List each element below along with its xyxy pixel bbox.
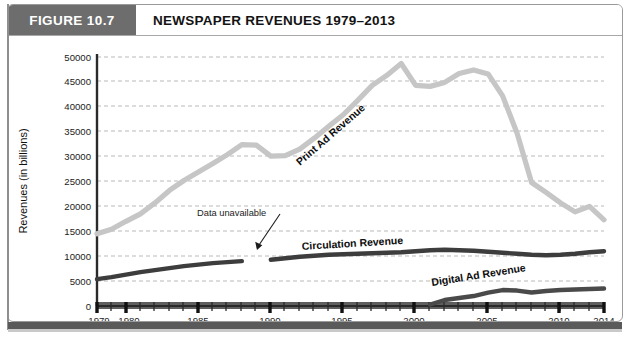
- x-tick-labels: 1979 1980 1985 1990 1995 2000 2005 2010 …: [88, 315, 615, 321]
- figure-header: FIGURE 10.7 NEWSPAPER REVENUES 1979–2013: [8, 5, 622, 35]
- footer-bar-shadow: [8, 329, 622, 332]
- figure-number-tag: FIGURE 10.7: [8, 5, 136, 35]
- y-tick-labels: 0 5000 10000 15000 20000 25000 30000 350…: [64, 52, 91, 312]
- card-left-edge: [7, 4, 9, 330]
- y-tick-30000: 30000: [64, 151, 91, 162]
- y-tick-40000: 40000: [64, 101, 91, 112]
- series-paths: [97, 63, 604, 304]
- y-tick-0: 0: [86, 301, 91, 312]
- line-chart: 0 5000 10000 15000 20000 25000 30000 350…: [8, 36, 622, 321]
- footer-bar: [8, 322, 622, 329]
- figure-card: FIGURE 10.7 NEWSPAPER REVENUES 1979–2013: [7, 4, 623, 322]
- series-line-circulation-b: [271, 250, 604, 260]
- y-tick-45000: 45000: [64, 76, 91, 87]
- figure-title-container: NEWSPAPER REVENUES 1979–2013: [136, 5, 622, 35]
- x-tick-2010: 2010: [548, 315, 569, 321]
- y-tick-50000: 50000: [64, 52, 91, 63]
- y-tick-35000: 35000: [64, 126, 91, 137]
- x-tick-2000: 2000: [403, 315, 424, 321]
- x-tick-2005: 2005: [476, 315, 497, 321]
- figure-title: NEWSPAPER REVENUES 1979–2013: [153, 13, 395, 28]
- x-tick-1979: 1979: [88, 315, 109, 321]
- y-tick-10000: 10000: [64, 251, 91, 262]
- series-line-circulation-a: [97, 261, 242, 279]
- series-line-print-ad: [97, 63, 604, 233]
- data-unavailable-note: Data unavailable: [197, 208, 266, 218]
- x-tick-2014: 2014: [593, 315, 615, 321]
- series-label-circulation: Circulation Revenue: [301, 234, 403, 252]
- y-axis-title: Revenues (in billions): [17, 128, 29, 233]
- y-tick-15000: 15000: [64, 226, 91, 237]
- x-tick-1985: 1985: [187, 315, 208, 321]
- y-tick-20000: 20000: [64, 201, 91, 212]
- data-unavailable-arrow: [255, 214, 280, 250]
- y-tick-5000: 5000: [70, 276, 91, 287]
- x-tick-1980: 1980: [118, 315, 139, 321]
- x-tick-1990: 1990: [259, 315, 280, 321]
- figure-page: FIGURE 10.7 NEWSPAPER REVENUES 1979–2013: [0, 0, 630, 342]
- series-label-digital-ad: Digital Ad Revenue: [430, 261, 526, 288]
- series-label-print-ad: Print Ad Revenue: [293, 101, 367, 167]
- chart-area: 0 5000 10000 15000 20000 25000 30000 350…: [8, 36, 622, 321]
- x-tick-1995: 1995: [331, 315, 352, 321]
- y-tick-25000: 25000: [64, 176, 91, 187]
